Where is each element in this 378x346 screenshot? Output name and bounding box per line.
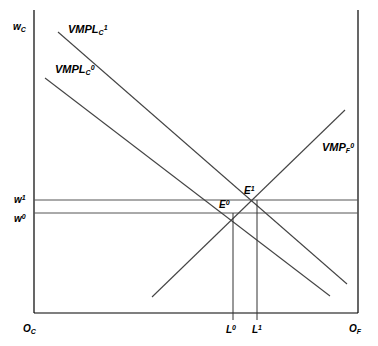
curve-label-vmplc1: VMPLC1 <box>68 24 108 36</box>
curve-vmpf0 <box>152 110 345 297</box>
equilibrium-label-e0: E0 <box>219 199 230 210</box>
y-axis-label: wC <box>13 22 26 33</box>
curve-label-vmpf0: VMPF0 <box>322 142 354 154</box>
origin-label-f: OF <box>349 324 361 335</box>
wage-label-w1: w1 <box>14 194 26 205</box>
curve-label-vmplc0: VMPLC0 <box>55 64 95 76</box>
labor-label-l0: L0 <box>226 324 236 335</box>
diagram-canvas <box>0 0 378 346</box>
labor-allocation-diagram: wC VMPLC1 VMPLC0 VMPF0 E1 E0 w1 w0 L0 L1… <box>0 0 378 346</box>
origin-label-c: OC <box>23 324 36 335</box>
curve-vmplc1 <box>58 32 347 284</box>
equilibrium-label-e1: E1 <box>244 185 255 196</box>
labor-label-l1: L1 <box>252 324 262 335</box>
wage-label-w0: w0 <box>14 213 26 224</box>
